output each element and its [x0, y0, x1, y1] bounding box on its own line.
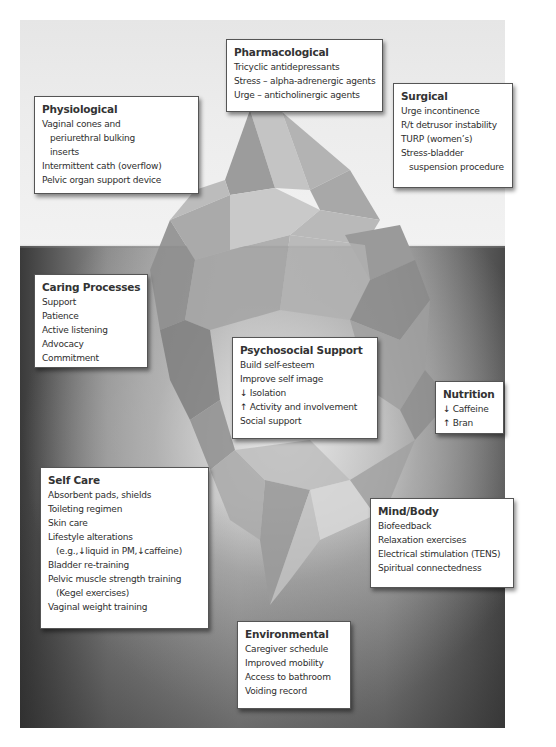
- pharmacological-box: Pharmacological Tricyclic antidepressant…: [226, 39, 383, 112]
- box-title: Caring Processes: [42, 280, 140, 295]
- list-item: Urge – anticholinergic agents: [234, 88, 375, 102]
- list-item: Toileting regimen: [48, 502, 201, 516]
- list-item: ↓ Isolation: [240, 386, 370, 400]
- list-item: Improved mobility: [245, 656, 343, 670]
- list-item: Biofeedback: [378, 519, 506, 533]
- list-item: Vaginal cones and: [42, 117, 191, 131]
- list-item: periurethral bulking: [42, 131, 191, 145]
- list-item: Bladder re-training: [48, 558, 201, 572]
- box-title: Self Care: [48, 473, 201, 488]
- list-item: inserts: [42, 145, 191, 159]
- box-title: Pharmacological: [234, 45, 375, 60]
- list-item: Tricyclic antidepressants: [234, 60, 375, 74]
- list-item: Improve self image: [240, 372, 370, 386]
- list-item: TURP (women’s): [401, 132, 505, 146]
- list-item: Stress-bladder: [401, 146, 505, 160]
- list-item: Pelvic muscle strength training: [48, 572, 201, 586]
- list-item: Social support: [240, 414, 370, 428]
- box-title: Nutrition: [443, 387, 496, 402]
- up-arrow-icon: ↑: [240, 400, 247, 414]
- nutrition-box: Nutrition ↓ Caffeine ↑ Bran: [435, 381, 504, 434]
- list-item-text: Caffeine: [453, 404, 489, 414]
- list-item-text: liquid in PM,: [85, 546, 137, 556]
- list-item: Access to bathroom: [245, 670, 343, 684]
- list-item: Spiritual connectedness: [378, 561, 506, 575]
- list-item: Electrical stimulation (TENS): [378, 547, 506, 561]
- list-item: Advocacy: [42, 337, 140, 351]
- list-item: Relaxation exercises: [378, 533, 506, 547]
- caring-processes-box: Caring Processes Support Patience Active…: [34, 274, 148, 368]
- list-item: Voiding record: [245, 684, 343, 698]
- list-item: ↑ Activity and involvement: [240, 400, 370, 414]
- box-title: Physiological: [42, 102, 191, 117]
- list-item: Vaginal weight training: [48, 600, 201, 614]
- mind-body-box: Mind/Body Biofeedback Relaxation exercis…: [370, 498, 514, 588]
- list-item-text: Bran: [453, 418, 473, 428]
- list-item: Build self-esteem: [240, 358, 370, 372]
- box-title: Environmental: [245, 627, 343, 642]
- box-title: Mind/Body: [378, 504, 506, 519]
- physiological-box: Physiological Vaginal cones and periuret…: [34, 96, 199, 194]
- box-title: Psychosocial Support: [240, 343, 370, 358]
- box-title: Surgical: [401, 89, 505, 104]
- list-item: Absorbent pads, shields: [48, 488, 201, 502]
- list-item: Intermittent cath (overflow): [42, 159, 191, 173]
- list-item: Pelvic organ support device: [42, 173, 191, 187]
- surgical-box: Surgical Urge incontinence R/t detrusor …: [393, 83, 513, 188]
- list-item: (e.g.,↓liquid in PM,↓caffeine): [48, 544, 201, 558]
- list-item: ↑ Bran: [443, 416, 496, 430]
- list-item: Active listening: [42, 323, 140, 337]
- down-arrow-icon: ↓: [443, 402, 450, 416]
- list-item: suspension procedure: [401, 160, 505, 174]
- list-item: Commitment: [42, 351, 140, 365]
- list-item: Lifestyle alterations: [48, 530, 201, 544]
- psychosocial-support-box: Psychosocial Support Build self-esteem I…: [232, 337, 378, 439]
- list-item: Caregiver schedule: [245, 642, 343, 656]
- list-item: ↓ Caffeine: [443, 402, 496, 416]
- list-item: Urge incontinence: [401, 104, 505, 118]
- list-item: (Kegel exercises): [48, 586, 201, 600]
- list-item-text: Isolation: [250, 388, 286, 398]
- self-care-box: Self Care Absorbent pads, shields Toilet…: [40, 467, 209, 629]
- list-item: Stress – alpha-adrenergic agents: [234, 74, 375, 88]
- environmental-box: Environmental Caregiver schedule Improve…: [237, 621, 351, 709]
- list-item: Support: [42, 295, 140, 309]
- down-arrow-icon: ↓: [240, 386, 247, 400]
- list-item: Skin care: [48, 516, 201, 530]
- list-item: R/t detrusor instability: [401, 118, 505, 132]
- list-item-text: Activity and involvement: [250, 402, 357, 412]
- list-item-text: (e.g.,: [56, 546, 78, 556]
- list-item: Patience: [42, 309, 140, 323]
- list-item-text: caffeine): [144, 546, 182, 556]
- up-arrow-icon: ↑: [443, 416, 450, 430]
